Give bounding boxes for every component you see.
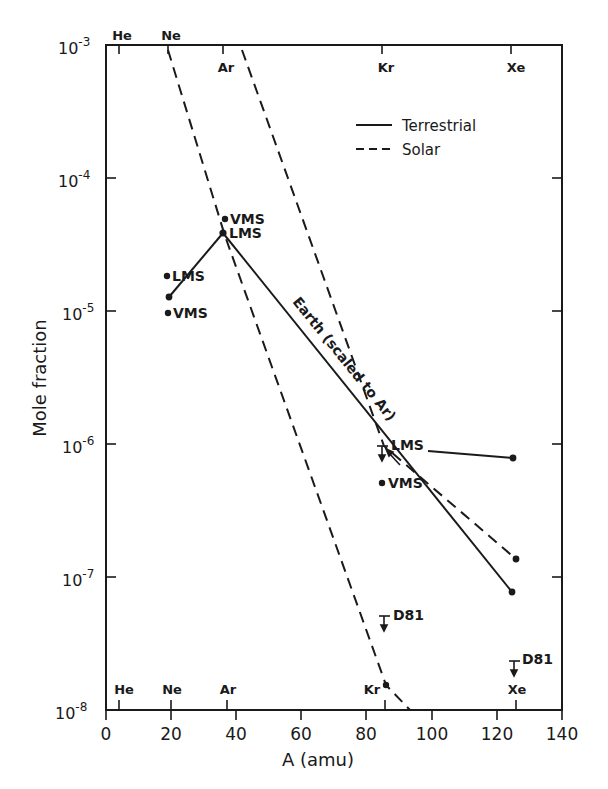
element-ne-top: Ne: [161, 28, 181, 43]
mole-fraction-chart: 0 20 40 60 80 100 120 140 A (amu) 10-3 1…: [0, 0, 608, 789]
label-ar-lms: LMS: [229, 225, 262, 241]
legend-solar: Solar: [402, 141, 441, 159]
element-xe-bottom: Xe: [508, 682, 527, 697]
y-axis-title: Mole fraction: [29, 319, 50, 436]
x-tick-120: 120: [481, 724, 513, 744]
x-tick-100: 100: [416, 724, 448, 744]
y-tick-labels: 10-3 10-4 10-5 10-6 10-7 10-8: [55, 35, 94, 723]
y-tick-1e-7: 10-7: [62, 567, 94, 590]
element-ne-bottom: Ne: [162, 682, 182, 697]
point-kr-solar: [383, 682, 389, 688]
element-labels-bottom: He Ne Ar Kr Xe: [114, 682, 526, 697]
earth-scaled-annotation: Earth (scaled to Ar): [290, 294, 400, 424]
element-kr-top: Kr: [378, 60, 395, 75]
point-xe-lms: [510, 455, 517, 462]
element-xe-top: Xe: [507, 60, 526, 75]
upper-limit-kr-d81: [379, 616, 390, 631]
label-kr-vms: VMS: [388, 475, 423, 491]
element-he-top: He: [112, 28, 132, 43]
x-tick-0: 0: [101, 724, 112, 744]
legend: Terrestrial Solar: [356, 117, 476, 159]
terrestrial-kr-xe-lms: [428, 451, 513, 458]
point-ne-vms: [165, 310, 171, 316]
point-xe-terrestrial: [509, 589, 516, 596]
y-ticks: [106, 178, 562, 577]
legend-terrestrial: Terrestrial: [401, 117, 476, 135]
data-points: [164, 216, 520, 688]
point-ar-lms: [219, 229, 226, 236]
label-xe-d81: D81: [522, 651, 553, 667]
y-tick-1e-6: 10-6: [62, 434, 94, 457]
point-ne-terrestrial: [166, 294, 173, 301]
label-ne-vms: VMS: [173, 305, 208, 321]
y-tick-1e-5: 10-5: [62, 301, 94, 324]
point-ne-lms: [164, 273, 170, 279]
element-ar-top: Ar: [218, 60, 235, 75]
upper-limit-xe-d81: [509, 661, 520, 676]
y-tick-1e-3: 10-3: [58, 35, 90, 58]
element-ar-bottom: Ar: [220, 682, 237, 697]
element-he-bottom: He: [114, 682, 134, 697]
x-tick-labels: 0 20 40 60 80 100 120 140: [101, 724, 579, 744]
element-kr-bottom: Kr: [364, 682, 381, 697]
x-tick-80: 80: [355, 724, 377, 744]
point-kr-vms: [379, 480, 385, 486]
terrestrial-lines: [169, 233, 513, 592]
point-xe-solar: [513, 556, 520, 563]
earth-scaled-line: [223, 233, 512, 592]
x-tick-60: 60: [290, 724, 312, 744]
terrestrial-ne-ar: [169, 233, 223, 297]
label-kr-lms: LMS: [391, 437, 424, 453]
x-tick-140: 140: [546, 724, 578, 744]
y-tick-1e-4: 10-4: [58, 168, 90, 191]
x-axis-title: A (amu): [282, 749, 354, 770]
x-tick-20: 20: [160, 724, 182, 744]
label-ne-lms: LMS: [172, 268, 205, 284]
plot-frame: [106, 45, 562, 710]
point-labels: LMS VMS VMS LMS LMS VMS D81 D81: [172, 211, 553, 667]
y-tick-1e-8: 10-8: [55, 700, 87, 723]
label-kr-d81: D81: [393, 607, 424, 623]
point-ar-vms: [222, 216, 228, 222]
x-tick-40: 40: [225, 724, 247, 744]
x-ticks: [106, 45, 562, 720]
